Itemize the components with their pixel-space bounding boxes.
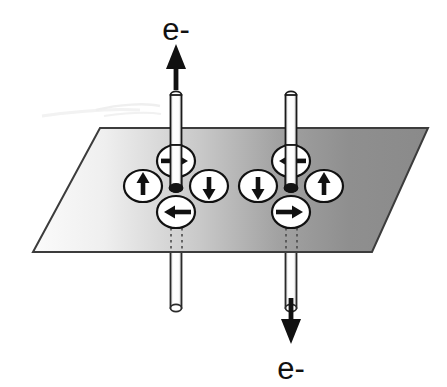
- spin-right-left-cluster: [190, 170, 228, 202]
- spin-right-right-cluster: [305, 170, 343, 202]
- bottom-electron-label: e-: [277, 351, 305, 386]
- spin-left-right-cluster: [239, 170, 277, 202]
- diagram-canvas: e- e-: [0, 0, 447, 387]
- scan-artifact: [42, 104, 161, 116]
- left-electrode-lower: [171, 246, 182, 312]
- bottom-electron-arrow: [281, 298, 301, 344]
- spin-left-left-cluster: [124, 170, 162, 202]
- magnetic-layer-plane: [33, 128, 428, 252]
- spin-bottom-left-cluster: [157, 196, 195, 228]
- spin-bottom-right-cluster: [272, 196, 310, 228]
- top-electron-arrow: [166, 44, 186, 90]
- spin-vortex-figure: e- e-: [0, 0, 447, 387]
- top-electron-label: e-: [162, 12, 190, 47]
